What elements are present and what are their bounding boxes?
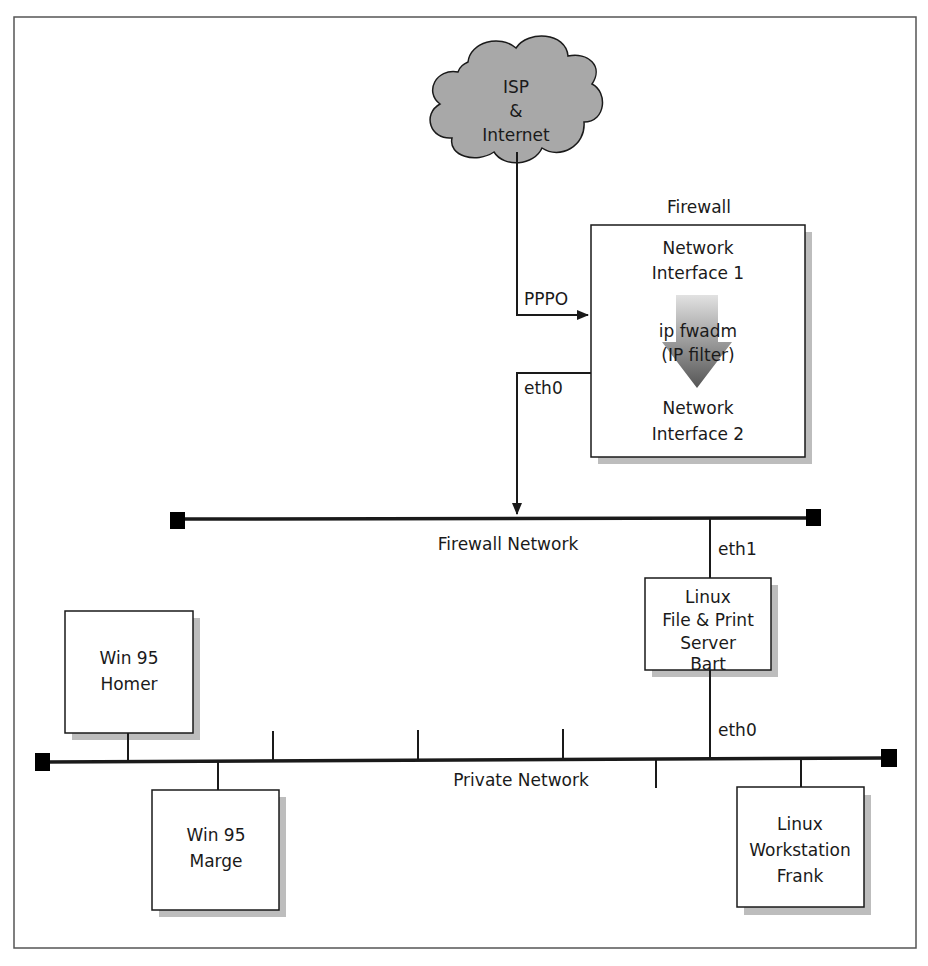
bus-terminator [35,753,50,771]
host-frank: Linux Workstation Frank [737,787,871,915]
frank-label-line-2: Workstation [749,840,851,860]
filter-label-line-2: (IP filter) [661,345,734,365]
cloud-label-line-2: & [509,101,522,121]
interface-1-label-line-2: Interface 1 [652,263,744,283]
private-network-label: Private Network [453,770,589,790]
marge-label-line-1: Win 95 [187,825,246,845]
host-bart: Linux File & Print Server Bart [645,578,778,677]
bart-label-line-1: Linux [685,587,731,607]
host-marge: Win 95 Marge [152,790,286,917]
firewall-eth0-label: eth0 [524,378,563,398]
bus-terminator [881,749,897,767]
interface-2-label-line-1: Network [663,398,734,418]
host-homer: Win 95 Homer [65,611,200,740]
cloud-label-line-1: ISP [503,77,529,97]
homer-label-line-2: Homer [100,674,157,694]
bus-terminator [170,512,185,529]
homer-label-line-1: Win 95 [100,648,159,668]
firewall-network-bus [170,509,821,529]
firewall-title: Firewall [667,197,731,217]
cloud-label-line-3: Internet [482,125,550,145]
bart-eth0-label: eth0 [718,720,757,740]
bart-label-line-3: Server [680,633,736,653]
firewall-network-label: Firewall Network [438,534,579,554]
bus-terminator [806,509,821,526]
network-diagram: ISP & Internet PPPO Firewall Network Int… [0,0,928,966]
marge-label-line-2: Marge [189,851,242,871]
firewall-box: Network Interface 1 ip fwadm (IP filter)… [591,225,812,464]
bart-eth1-label: eth1 [718,539,757,559]
internet-cloud: ISP & Internet [430,36,602,163]
bart-label-line-4: Bart [690,654,726,674]
interface-1-label-line-1: Network [663,238,734,258]
frank-label-line-1: Linux [777,814,823,834]
filter-label-line-1: ip fwadm [659,321,737,341]
frank-label-line-3: Frank [777,866,824,886]
pppo-label: PPPO [524,289,568,309]
bart-label-line-2: File & Print [662,610,754,630]
interface-2-label-line-2: Interface 2 [652,424,744,444]
